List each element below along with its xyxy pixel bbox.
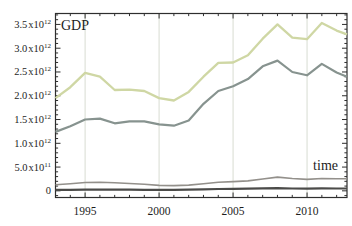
y-label-exponent: 12 [44,113,52,121]
y-label-base: x10 [28,114,44,125]
y-tick-label-3.0: 3.0x1012 [14,42,51,54]
x-tick-label-2000: 2000 [148,205,171,217]
x-tick-label-2010: 2010 [296,205,319,217]
y-label-base: x10 [28,66,44,77]
gdp-axis-label: GDP [61,18,89,33]
y-tick-label-1.5: 1.5x1012 [14,113,51,125]
y-label-mantissa: 3.0 [14,43,27,54]
y-label-exponent: 12 [44,18,52,26]
inplot-labels: GDP time [61,18,338,173]
y-label-base: x10 [28,19,44,30]
y-label-exponent: 12 [44,42,52,50]
x-tick-label-2005: 2005 [222,205,245,217]
y-tick-label-3.5: 3.5x1012 [14,18,51,30]
y-tick-label-5.0: 5.0x1011 [14,161,51,173]
y-label-base: x10 [28,138,44,149]
y-label-mantissa: 1.0 [14,138,27,149]
gdp-time-chart: 19952000200520103.5x10123.0x10122.5x1012… [0,0,352,226]
chart-svg: 19952000200520103.5x10123.0x10122.5x1012… [0,0,352,226]
y-label-exponent: 11 [44,161,51,169]
line-series-1-light-green [56,23,348,101]
y-label-exponent: 12 [44,89,52,97]
y-label-mantissa: 5.0 [14,162,27,173]
y-tick-label-2.5: 2.5x1012 [14,65,51,77]
y-label-mantissa: 3.5 [14,19,27,30]
y-label-mantissa: 2.0 [14,90,27,101]
time-axis-label: time [313,158,338,173]
y-label-mantissa: 2.5 [14,66,27,77]
y-tick-label-0: 0 [46,185,51,196]
gridlines [85,14,307,198]
line-series-3-gray [56,177,348,186]
line-series-4-dark [56,188,348,190]
y-label-mantissa: 0 [46,185,51,196]
x-tick-label-1995: 1995 [74,205,97,217]
y-label-mantissa: 1.5 [14,114,27,125]
y-label-base: x10 [29,162,45,173]
y-label-base: x10 [28,90,44,101]
y-tick-label-2.0: 2.0x1012 [14,89,51,101]
y-tick-label-1.0: 1.0x1012 [14,137,51,149]
y-label-exponent: 12 [44,65,52,73]
y-label-base: x10 [28,43,44,54]
line-series-2-gray-teal [56,61,348,132]
y-label-exponent: 12 [44,137,52,145]
